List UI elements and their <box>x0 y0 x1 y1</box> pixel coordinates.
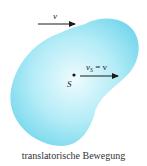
svg-text:vS = v: vS = v <box>86 62 108 73</box>
rigid-body-diagram: v S vS = v <box>0 0 147 166</box>
top-velocity-arrow: v <box>38 11 75 24</box>
rigid-body-shape <box>10 19 138 146</box>
center-point-label: S <box>67 79 72 89</box>
center-point-icon <box>72 73 75 76</box>
figure-caption: translatorische Bewegung <box>0 150 147 161</box>
top-arrow-label: v <box>53 11 57 21</box>
center-arrow-label-rest: = v <box>93 62 108 72</box>
